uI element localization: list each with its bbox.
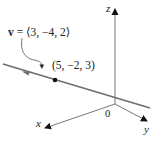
pointer-arrowhead-icon [40,65,45,70]
y-axis-label: y [143,123,149,135]
vector-components: = ⟨3, −4, 2⟩ [17,26,71,39]
vector-label: v = ⟨3, −4, 2⟩ [8,26,70,39]
z-axis-label: z [105,2,111,14]
direction-arrow-icon [22,71,30,76]
y-axis [115,104,147,121]
x-axis-label: x [35,117,41,129]
point-label: (5, −2, 3) [52,59,95,72]
vector-symbol: v [8,26,14,38]
origin-label: 0 [105,108,110,119]
diagram-canvas: v = ⟨3, −4, 2⟩ (5, −2, 3) z x y 0 [0,0,161,146]
point-dot [53,78,58,83]
curved-pointer-arrow [22,38,43,66]
